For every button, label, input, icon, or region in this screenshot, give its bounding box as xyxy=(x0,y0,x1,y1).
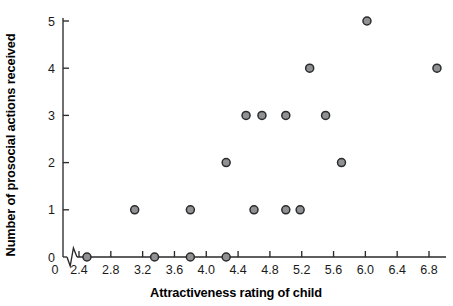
x-tick-label: 6.0 xyxy=(357,263,374,277)
marker-circle xyxy=(250,206,258,214)
data-point-marker xyxy=(282,111,290,119)
marker-circle xyxy=(282,111,290,119)
data-point-marker xyxy=(222,159,230,167)
data-point-marker xyxy=(83,253,91,261)
y-tick-label: 3 xyxy=(48,109,55,123)
data-point-marker xyxy=(131,206,139,214)
marker-circle xyxy=(151,253,159,261)
marker-circle xyxy=(338,159,346,167)
marker-circle xyxy=(306,64,314,72)
x-tick-label: 6.8 xyxy=(420,263,437,277)
scatter-plot-figure: 2.42.83.23.64.04.44.85.25.66.06.46.80 01… xyxy=(0,0,453,306)
marker-circle xyxy=(242,111,250,119)
marker-circle xyxy=(322,111,330,119)
y-tick-marks xyxy=(63,21,69,210)
data-point-marker xyxy=(363,17,371,25)
data-point-marker xyxy=(322,111,330,119)
data-point-marker xyxy=(296,206,304,214)
x-tick-label: 4.0 xyxy=(198,263,215,277)
data-point-marker xyxy=(186,253,194,261)
marker-circle xyxy=(186,253,194,261)
data-point-marker xyxy=(250,206,258,214)
marker-circle xyxy=(433,64,441,72)
data-point-marker xyxy=(258,111,266,119)
x-tick-label: 6.4 xyxy=(388,263,405,277)
marker-circle xyxy=(131,206,139,214)
data-point-marker xyxy=(433,64,441,72)
data-point-marker xyxy=(306,64,314,72)
y-tick-label: 1 xyxy=(48,203,55,217)
data-point-marker xyxy=(282,206,290,214)
x-tick-label: 4.8 xyxy=(261,263,278,277)
data-points xyxy=(83,17,441,261)
x-tick-label: 2.8 xyxy=(102,263,119,277)
marker-circle xyxy=(296,206,304,214)
data-point-marker xyxy=(338,159,346,167)
data-point-marker xyxy=(186,206,194,214)
marker-circle xyxy=(363,17,371,25)
x-tick-label: 4.4 xyxy=(229,263,246,277)
plot-canvas: 2.42.83.23.64.04.44.85.25.66.06.46.80 01… xyxy=(0,0,453,306)
x-tick-marks xyxy=(79,251,429,257)
data-point-marker xyxy=(222,253,230,261)
x-axis-origin-label: 0 xyxy=(52,263,59,277)
data-point-marker xyxy=(151,253,159,261)
x-tick-labels: 2.42.83.23.64.04.44.85.25.66.06.46.80 xyxy=(52,263,438,277)
axes-group xyxy=(63,18,446,266)
x-tick-label: 3.6 xyxy=(166,263,183,277)
y-tick-labels: 012345 xyxy=(48,15,55,265)
x-tick-label: 5.6 xyxy=(325,263,342,277)
y-tick-label: 2 xyxy=(48,156,55,170)
marker-circle xyxy=(222,253,230,261)
y-tick-label: 5 xyxy=(48,15,55,29)
data-point-marker xyxy=(242,111,250,119)
y-axis-title: Number of prosocial actions received xyxy=(3,34,18,257)
y-tick-label: 4 xyxy=(48,62,55,76)
marker-circle xyxy=(186,206,194,214)
marker-circle xyxy=(282,206,290,214)
y-tick-label: 0 xyxy=(48,251,55,265)
x-tick-label: 2.4 xyxy=(70,263,87,277)
x-axis-title: Attractiveness rating of child xyxy=(150,285,322,300)
marker-circle xyxy=(83,253,91,261)
x-tick-label: 3.2 xyxy=(134,263,151,277)
x-tick-label: 5.2 xyxy=(293,263,310,277)
marker-circle xyxy=(258,111,266,119)
marker-circle xyxy=(222,159,230,167)
